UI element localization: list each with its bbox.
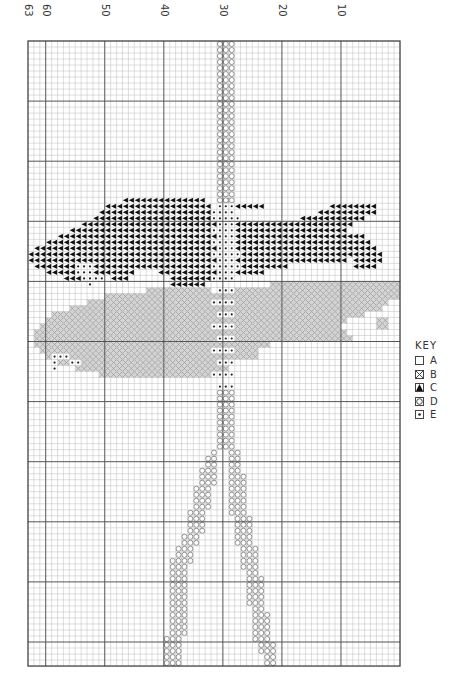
key-label-e: E [430,409,436,420]
column-label-60: 60 [41,4,52,17]
key-title: KEY [415,340,438,351]
legend-key: KEY A B C D E [415,340,438,422]
key-label-c: C [430,382,437,393]
key-label-a: A [430,355,437,366]
column-label-63: 63 [23,4,34,17]
key-item-d: D [415,395,438,409]
key-item-b: B [415,368,438,382]
dot-square-icon [415,410,424,419]
column-label-50: 50 [100,4,111,17]
key-item-a: A [415,354,438,368]
empty-square-icon [415,356,424,365]
key-item-e: E [415,408,438,422]
crossed-square-icon [415,370,424,379]
key-item-c: C [415,381,438,395]
key-label-d: D [430,396,438,407]
column-label-40: 40 [159,4,170,17]
black-triangle-icon [415,383,424,392]
stitch-chart [0,0,454,691]
column-label-20: 20 [277,4,288,17]
column-label-10: 10 [336,4,347,17]
key-label-b: B [430,369,437,380]
column-label-30: 30 [218,4,229,17]
circle-square-icon [415,397,424,406]
minor-grid-lines [28,41,400,666]
